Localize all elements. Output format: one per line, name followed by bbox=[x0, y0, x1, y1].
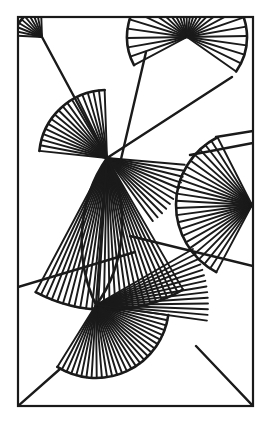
artwork-root: Abstract Radial Fan Line Composition bbox=[0, 0, 271, 424]
abstract-fan-line-artwork: Abstract Radial Fan Line Composition bbox=[0, 0, 271, 424]
top-right-sunburst-fan-ray bbox=[127, 37, 187, 38]
top-right-sunburst-fan-ray bbox=[187, 36, 247, 37]
